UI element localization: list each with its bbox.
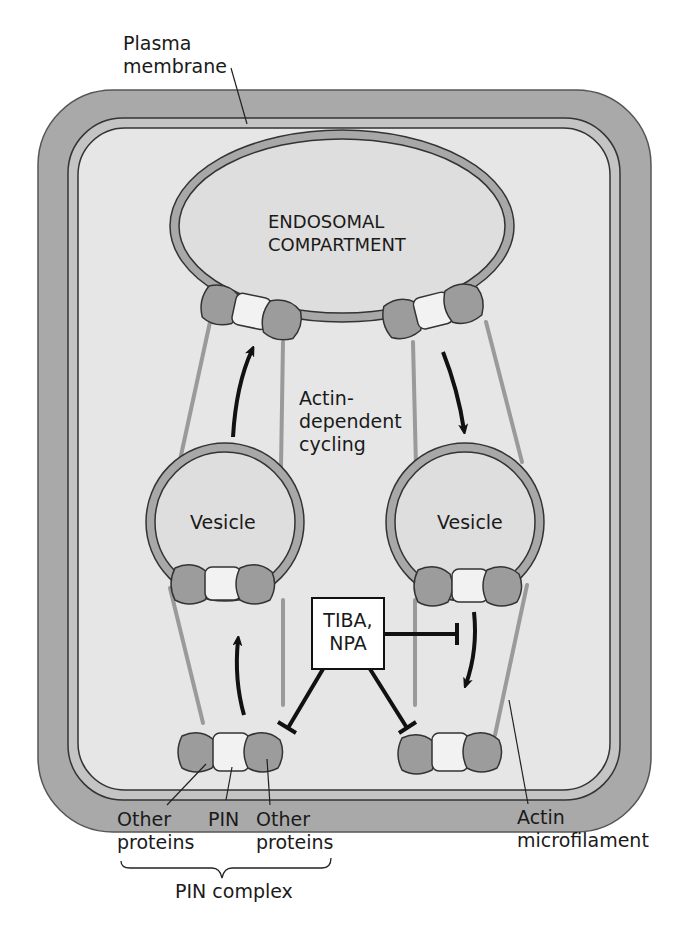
actin-microfilament-label: Actin microfilament [517,806,649,852]
inhibitor-label: TIBA, NPA [312,609,384,655]
vesicle-right-label: Vesicle [437,511,503,534]
pin-complex-label: PIN complex [175,880,293,903]
cycling-label: Actin- dependent cycling [299,387,402,456]
plasma-membrane-label: Plasma membrane [123,32,227,78]
pin-complex-vesicle-left [171,565,275,604]
pin-complex-vesicle-right [414,567,522,606]
pin-complex-brace [121,858,331,878]
other-proteins-right-label: Other proteins [256,808,333,854]
other-proteins-left-label: Other proteins [117,808,194,854]
vesicle-left-label: Vesicle [190,511,256,534]
pin-complex-membrane-right [398,733,502,774]
pin-label: PIN [208,808,239,831]
pin-cycling-diagram [0,0,689,932]
endosome-label: ENDOSOMAL COMPARTMENT [268,210,406,256]
